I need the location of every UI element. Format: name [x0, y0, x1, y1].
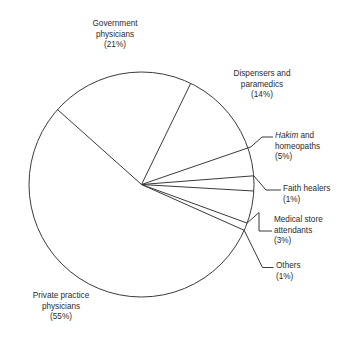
- label-line-1: Private practice: [6, 291, 116, 302]
- label-line-2: homeopaths: [275, 142, 345, 153]
- slice-label-hakim-homeopaths: Hakim and homeopaths (5%): [275, 131, 345, 163]
- label-hakim-italic: Hakim: [275, 131, 298, 140]
- slice-label-medical-store-attendants: Medical store attendants (3%): [274, 215, 346, 247]
- label-percent: (3%): [274, 236, 346, 247]
- label-percent: (14%): [206, 90, 318, 101]
- leader-line-faith: [254, 176, 281, 190]
- label-line-2: physicians: [58, 30, 172, 41]
- label-percent: (5%): [275, 152, 345, 163]
- slice-label-faith-healers: Faith healers (1%): [283, 184, 345, 205]
- wedge-divider-medical-others: [142, 185, 248, 224]
- wedge-divider-faith-medical: [142, 185, 254, 192]
- leader-line-medical: [247, 213, 272, 232]
- slice-label-private-practice-physicians: Private practice physicians (55%): [6, 291, 116, 323]
- label-line-1: Government: [58, 19, 172, 30]
- label-percent: (1%): [276, 272, 336, 283]
- label-line-1: Hakim and: [275, 131, 345, 142]
- wedge-divider-government-dispensers: [142, 83, 191, 184]
- label-percent: (21%): [58, 40, 172, 51]
- wedge-divider-hakim-faith: [142, 176, 254, 185]
- label-percent: (1%): [283, 195, 345, 206]
- wedge-divider-government-private: [57, 109, 141, 184]
- label-hakim-rest: and: [298, 131, 314, 140]
- slice-label-dispensers-paramedics: Dispensers and paramedics (14%): [206, 69, 318, 101]
- wedge-divider-others-private: [142, 185, 245, 231]
- wedge-divider-dispensers-hakim: [142, 147, 251, 185]
- pie-chart-figure: Government physicians (21%) Dispensers a…: [0, 0, 346, 348]
- label-line-1: Dispensers and: [206, 69, 318, 80]
- label-line-2: attendants: [274, 226, 346, 237]
- label-percent: (55%): [6, 312, 116, 323]
- label-line-1: Medical store: [274, 215, 346, 226]
- label-line-2: physicians: [6, 302, 116, 313]
- slice-label-others: Others (1%): [276, 261, 336, 282]
- leader-line-hakim: [251, 137, 273, 147]
- leader-line-others: [244, 230, 273, 267]
- slice-label-government-physicians: Government physicians (21%): [58, 19, 172, 51]
- label-line-2: paramedics: [206, 80, 318, 91]
- label-line-1: Others: [276, 261, 336, 272]
- label-line-1: Faith healers: [283, 184, 345, 195]
